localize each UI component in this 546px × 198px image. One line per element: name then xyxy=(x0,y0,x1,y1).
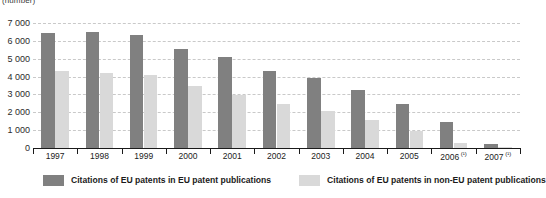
x-tick-label: 2002 xyxy=(267,151,286,161)
x-tick-label: 1998 xyxy=(90,151,109,161)
bar-series-1 xyxy=(130,35,144,148)
bar-group xyxy=(431,23,475,148)
bar-series-1 xyxy=(41,33,55,148)
legend-item-non-eu-publications: Citations of EU patents in non-EU patent… xyxy=(299,175,546,186)
legend-swatch-series-2 xyxy=(299,175,320,186)
legend-swatch-series-1 xyxy=(43,175,64,186)
x-tick-label: 2006 (¹) xyxy=(440,151,467,162)
legend-label-series-2: Citations of EU patents in non-EU patent… xyxy=(327,175,546,185)
bar-series-2 xyxy=(321,111,335,148)
plot-area xyxy=(33,23,520,148)
x-tick-label: 2004 xyxy=(356,151,375,161)
x-tick-label: 2001 xyxy=(223,151,242,161)
bar-series-1 xyxy=(351,90,365,148)
bar-group xyxy=(210,23,254,148)
bar-series-1 xyxy=(86,32,100,148)
bar-series-2 xyxy=(410,131,424,148)
x-tick-label: 2000 xyxy=(178,151,197,161)
bar-groups xyxy=(33,23,520,148)
bar-series-2 xyxy=(232,95,246,148)
bar-group xyxy=(476,23,520,148)
footnote-marker: (¹) xyxy=(503,151,511,157)
bar-series-2 xyxy=(188,86,202,148)
footnote-marker: (¹) xyxy=(459,151,467,157)
y-tick-label: 6 000 xyxy=(7,36,30,46)
bar-series-2 xyxy=(55,71,69,148)
bar-series-1 xyxy=(396,104,410,148)
y-tick-label: 3 000 xyxy=(7,89,30,99)
y-tick-label: 5 000 xyxy=(7,54,30,64)
chart-legend: Citations of EU patents in EU patent pub… xyxy=(0,170,527,190)
bar-group xyxy=(254,23,298,148)
x-tick-label: 2007 (¹) xyxy=(485,151,512,162)
y-tick-label: 1 000 xyxy=(7,125,30,135)
bar-series-1 xyxy=(263,71,277,148)
bar-series-2 xyxy=(277,104,291,148)
y-axis-unit-label: (number) xyxy=(2,0,35,5)
x-axis-tick-labels: 1997199819992000200120022003200420052006… xyxy=(33,151,520,165)
x-tick-label: 2003 xyxy=(311,151,330,161)
axis-end-tick xyxy=(520,148,521,154)
bar-series-1 xyxy=(307,78,321,148)
x-tick-label: 1999 xyxy=(134,151,153,161)
bar-series-1 xyxy=(174,49,188,148)
y-tick-label: 7 000 xyxy=(7,18,30,28)
bar-group xyxy=(77,23,121,148)
bar-series-2 xyxy=(100,73,114,148)
legend-label-series-1: Citations of EU patents in EU patent pub… xyxy=(71,175,271,185)
x-tick-label: 1997 xyxy=(46,151,65,161)
bar-group xyxy=(343,23,387,148)
y-tick-label: 0 xyxy=(25,143,30,153)
bar-series-2 xyxy=(365,120,379,148)
bar-group xyxy=(166,23,210,148)
y-tick-label: 4 000 xyxy=(7,72,30,82)
bar-group xyxy=(387,23,431,148)
y-axis-tick-labels: 01 0002 0003 0004 0005 0006 0007 000 xyxy=(0,23,30,148)
bar-group xyxy=(299,23,343,148)
bar-series-2 xyxy=(144,75,158,148)
x-tick-label: 2005 xyxy=(400,151,419,161)
x-axis-line xyxy=(33,148,520,149)
bar-series-1 xyxy=(218,57,232,148)
legend-item-eu-publications: Citations of EU patents in EU patent pub… xyxy=(43,175,271,186)
bar-group xyxy=(33,23,77,148)
y-tick-label: 2 000 xyxy=(7,107,30,117)
bar-series-1 xyxy=(440,122,454,148)
bar-group xyxy=(122,23,166,148)
